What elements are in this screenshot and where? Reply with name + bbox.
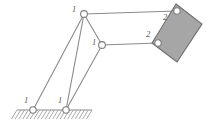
label-top-joint: 1	[72, 4, 76, 14]
top-joint	[81, 11, 88, 18]
label-ground-left: 1	[24, 95, 28, 105]
link-coupler-lower	[66, 45, 102, 110]
label-ground-right: 1	[58, 95, 62, 105]
link-right-crank	[66, 14, 84, 110]
link-mid-connector	[102, 43, 158, 45]
label-middle-joint: 1	[92, 37, 96, 47]
joint-circles-group	[30, 8, 180, 113]
ground-support-group	[11, 110, 92, 119]
joint-labels-group: 111122	[24, 4, 168, 105]
linkage-links-group	[33, 11, 177, 110]
block-bottom-joint	[155, 40, 161, 46]
block-top-joint	[174, 8, 180, 14]
label-block-bottom: 2	[146, 29, 151, 39]
mechanism-diagram: 111122	[0, 0, 207, 128]
ground-pivot-right	[63, 107, 69, 113]
mechanism-figure: 111122	[0, 0, 207, 128]
ground-pivot-left	[30, 107, 36, 113]
middle-joint	[99, 42, 106, 49]
